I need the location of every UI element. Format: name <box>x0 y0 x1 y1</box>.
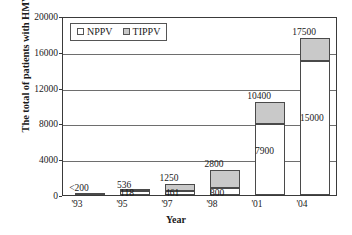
x-tick-label-2001: '01 <box>239 199 275 209</box>
bar-nppv-label-1997: 461 <box>165 188 179 198</box>
chart-legend: NPPV TIPPV <box>70 23 167 41</box>
bar-segment-nppv <box>300 61 330 195</box>
legend-item-tippv: TIPPV <box>123 26 161 37</box>
y-tick-label-4000: 4000 <box>14 156 58 166</box>
gridline-12000 <box>63 90 336 91</box>
legend-swatch-nppv-icon <box>77 28 84 35</box>
y-tick-label-0: 0 <box>14 192 58 202</box>
gridline-8000 <box>63 125 336 126</box>
bar-nppv-label-2004: 15000 <box>300 113 324 123</box>
x-tick-label-1997: '97 <box>149 199 185 209</box>
chart-figure: The total of patients with HMV 20000 160… <box>0 0 352 235</box>
bar-segment-tippv <box>75 193 105 195</box>
y-tick-label-16000: 16000 <box>14 49 58 59</box>
bar-segment-nppv <box>255 124 285 195</box>
bar-total-label-2004: 17500 <box>284 27 324 37</box>
x-tick-label-1993: '93 <box>59 199 95 209</box>
y-tick-label-20000: 20000 <box>14 13 58 23</box>
legend-label-nppv: NPPV <box>87 26 113 37</box>
bar-segment-tippv <box>210 170 240 188</box>
bar-segment-tippv <box>255 102 285 124</box>
y-axis-title: The total of patients with HMV <box>20 0 31 154</box>
x-tick-label-1995: '95 <box>104 199 140 209</box>
x-axis-title: Year <box>0 214 352 225</box>
legend-swatch-tippv-icon <box>123 28 130 35</box>
gridline-16000 <box>63 54 336 55</box>
y-tick-label-12000: 12000 <box>14 85 58 95</box>
y-tick-mark <box>59 196 62 197</box>
bar-tippv-label-1995: 118 <box>120 188 134 198</box>
bar-segment-tippv <box>300 38 330 60</box>
x-tick-label-2004: '04 <box>284 199 320 209</box>
bar-total-label-1993: <200 <box>59 183 99 193</box>
plot-area: NPPV TIPPV <box>62 17 337 196</box>
y-tick-label-8000: 8000 <box>14 120 58 130</box>
bar-nppv-label-2001: 7900 <box>255 146 274 156</box>
bar-total-label-1997: 1250 <box>149 173 189 183</box>
bar-1993[interactable] <box>75 193 105 195</box>
legend-label-tippv: TIPPV <box>133 26 161 37</box>
bar-total-label-2001: 10400 <box>239 91 279 101</box>
legend-item-nppv: NPPV <box>77 26 113 37</box>
bar-total-label-1998: 2800 <box>194 159 234 169</box>
x-tick-label-1998: '98 <box>194 199 230 209</box>
bar-nppv-label-1998: 800 <box>210 188 224 198</box>
